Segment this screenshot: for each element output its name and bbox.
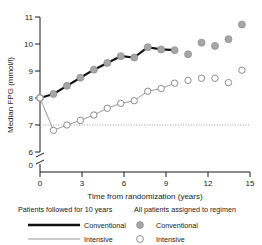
data-point	[144, 88, 150, 94]
data-point	[50, 90, 57, 97]
legend-label-intensive-followed: Intensive	[84, 235, 113, 244]
data-point	[158, 85, 164, 91]
legend-label-conventional-all: Conventional	[156, 221, 198, 230]
data-point	[212, 42, 219, 49]
y-tick-label-8: 8	[29, 94, 34, 103]
data-point	[104, 105, 110, 111]
chart-figure: 11 10 9 8 7 6 0 Median FPG (mmol/l) 0 3 …	[0, 0, 262, 245]
legend-label-conventional-followed: Conventional	[84, 221, 126, 230]
data-point	[144, 44, 151, 51]
data-point	[90, 66, 97, 73]
x-tick-label-9: 9	[164, 179, 169, 188]
data-point	[37, 95, 43, 101]
x-tick-label-15: 15	[246, 179, 255, 188]
data-point	[77, 117, 83, 123]
y-tick-label-9: 9	[29, 67, 34, 76]
data-point	[50, 127, 56, 133]
data-point	[77, 74, 84, 81]
data-point	[118, 100, 124, 106]
data-point	[104, 59, 111, 66]
data-point	[238, 21, 245, 28]
legend-right-header: All patients assigned to regimen	[134, 205, 236, 214]
data-point	[171, 47, 178, 54]
data-point	[64, 122, 70, 128]
data-point	[131, 98, 137, 104]
legend-left-header: Patients followed for 10 years	[18, 205, 113, 214]
x-tick-label-3: 3	[80, 179, 85, 188]
data-point	[117, 53, 124, 60]
data-point	[158, 46, 165, 53]
data-point	[131, 54, 138, 61]
legend-label-intensive-all: Intensive	[156, 235, 185, 244]
data-point	[171, 80, 177, 86]
x-axis-title: Time from randomization (years)	[87, 192, 203, 201]
x-tick-label-6: 6	[122, 179, 127, 188]
data-point	[225, 36, 232, 43]
data-point	[198, 39, 205, 46]
data-point	[198, 75, 204, 81]
chart-legend: Patients followed for 10 years All patie…	[0, 203, 262, 245]
legend-swatch-conventional-marker	[137, 222, 144, 229]
x-tick-label-0: 0	[38, 179, 43, 188]
data-point	[63, 82, 70, 89]
y-tick-label-10: 10	[24, 40, 33, 49]
y-axis-title: Median FPG (mmol/l)	[6, 57, 15, 133]
data-point	[225, 79, 231, 85]
data-point	[239, 67, 245, 73]
x-tick-label-12: 12	[204, 179, 213, 188]
data-point	[91, 112, 97, 118]
data-point	[212, 75, 218, 81]
y-tick-label-6: 6	[29, 148, 34, 157]
data-point	[185, 51, 192, 58]
y-tick-label-7: 7	[29, 121, 34, 130]
y-tick-label-11: 11	[25, 13, 34, 22]
legend-swatch-intensive-marker	[137, 236, 144, 243]
data-point	[185, 77, 191, 83]
y-axis-break-label-zero: 0	[29, 161, 34, 170]
